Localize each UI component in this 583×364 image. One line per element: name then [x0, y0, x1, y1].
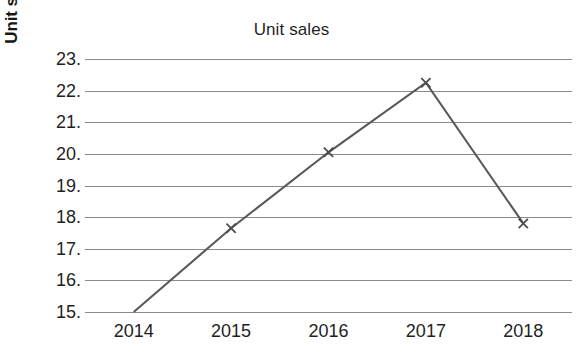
y-tick-label-20: 20. [0, 145, 81, 163]
plot-area [85, 59, 572, 312]
y-tick-label-15: 15. [0, 303, 81, 321]
y-tick-label-16: 16. [0, 271, 81, 289]
chart-title: Unit sales [0, 20, 583, 40]
y-tick-label-23: 23. [0, 50, 81, 68]
gridline-y-15 [85, 312, 572, 313]
y-tick-label-19: 19. [0, 177, 81, 195]
y-tick-label-18: 18. [0, 208, 81, 226]
data-point-marker-2015 [227, 224, 236, 233]
data-point-marker-2016 [324, 148, 333, 157]
y-tick-label-17: 17. [0, 240, 81, 258]
line-chart-figure: Unit sales Unit sales (millions) 15.16.1… [0, 0, 583, 364]
data-point-marker-2018 [519, 219, 528, 228]
data-point-marker-2017 [421, 78, 430, 87]
x-tick-label-2014: 2014 [89, 322, 179, 340]
x-tick-label-2016: 2016 [284, 322, 374, 340]
x-tick-label-2017: 2017 [381, 322, 471, 340]
x-tick-label-2015: 2015 [186, 322, 276, 340]
x-tick-label-2018: 2018 [478, 322, 568, 340]
y-tick-label-22: 22. [0, 82, 81, 100]
series-polyline [134, 83, 524, 312]
series-line-unit-sales [85, 59, 572, 312]
x-axis-tick-labels: 20142015201620172018 [0, 322, 583, 352]
y-tick-label-21: 21. [0, 113, 81, 131]
y-axis-tick-labels: 15.16.17.18.19.20.21.22.23. [0, 0, 81, 364]
